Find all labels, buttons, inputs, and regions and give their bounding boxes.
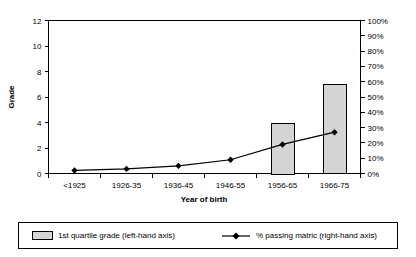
chart-container: 024681012 0%10%20%30%40%50%60%70%80%90%1… [0, 0, 416, 257]
line-series [71, 129, 337, 174]
line-marker [175, 163, 181, 169]
y2-axis-tick-label: 80% [368, 47, 384, 56]
y2-axis-tick-label: 30% [368, 124, 384, 133]
y2-axis-tick-label: 0% [368, 170, 380, 179]
y-axis-tick-label: 8 [37, 68, 42, 77]
x-axis-category-label: 1946-55 [216, 181, 246, 190]
x-axis-category-label: 1956-65 [268, 181, 298, 190]
y-axis-tick-label: 2 [37, 144, 42, 153]
bar [324, 85, 347, 174]
y2-axis-tick-label: 60% [368, 78, 384, 87]
line-marker [71, 167, 77, 173]
x-axis-category-label: 1926-35 [112, 181, 142, 190]
legend-line-label: % passing matric (right-hand axis) [256, 231, 377, 240]
y2-axis-tick-label: 70% [368, 62, 384, 71]
right-axis: 0%10%20%30%40%50%60%70%80%90%100% [361, 17, 388, 179]
chart-legend: 1st quartile grade (left-hand axis) % pa… [19, 223, 398, 249]
x-axis-category-label: 1936-45 [164, 181, 194, 190]
y2-axis-tick-label: 40% [368, 108, 384, 117]
x-axis-title: Year of birth [181, 195, 228, 204]
y-axis-tick-label: 0 [37, 170, 42, 179]
left-axis: 024681012 [33, 17, 49, 179]
x-axis-category-labels: <19251926-351936-451946-551956-651966-75 [63, 181, 349, 190]
y2-axis-tick-label: 100% [368, 17, 388, 26]
x-axis-category-label: <1925 [63, 181, 86, 190]
x-axis-category-label: 1966-75 [320, 181, 350, 190]
y2-axis-tick-label: 10% [368, 154, 384, 163]
legend-bar-swatch [33, 232, 53, 240]
line-marker [227, 157, 233, 163]
y-axis-title: Grade [7, 85, 16, 109]
y2-axis-tick-label: 20% [368, 139, 384, 148]
combo-chart: 024681012 0%10%20%30%40%50%60%70%80%90%1… [0, 0, 416, 257]
legend-bar-label: 1st quartile grade (left-hand axis) [58, 231, 175, 240]
line-marker [123, 166, 129, 172]
plot-area-frame [49, 21, 361, 174]
y-axis-tick-label: 4 [37, 119, 42, 128]
y2-axis-tick-label: 50% [368, 93, 384, 102]
x-axis-ticks [49, 174, 361, 178]
bar-series [272, 85, 347, 175]
y-axis-tick-label: 10 [33, 42, 42, 51]
y-axis-tick-label: 12 [33, 17, 42, 26]
bar [272, 124, 295, 175]
y2-axis-tick-label: 90% [368, 32, 384, 41]
y-axis-tick-label: 6 [37, 93, 42, 102]
